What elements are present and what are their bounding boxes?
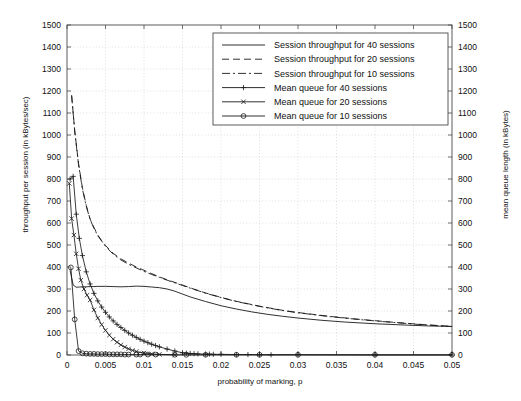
marker-plus — [195, 351, 200, 356]
marker-plus — [165, 346, 170, 351]
marker-plus — [74, 212, 79, 217]
series-2 — [72, 95, 452, 326]
y-tick-label-right: 300 — [458, 284, 472, 294]
x-axis-label: probability of marking, p — [180, 377, 340, 386]
y-tick-label-left: 1200 — [42, 86, 61, 96]
series-line — [72, 95, 452, 326]
y-tick-label-right: 1400 — [458, 42, 477, 52]
y-tick-label-left: 600 — [47, 218, 61, 228]
y-tick-label-left: 300 — [47, 284, 61, 294]
legend-item-label: Session throughput for 20 sessions — [274, 54, 415, 64]
y-tick-label-right: 500 — [458, 240, 472, 250]
legend-item-label: Session throughput for 10 sessions — [274, 69, 415, 79]
y-tick-label-left: 1500 — [42, 20, 61, 30]
y-tick-label-left: 0 — [56, 350, 61, 360]
series-line — [69, 183, 174, 354]
marker-cross — [99, 322, 103, 326]
series-5 — [68, 265, 454, 357]
y-tick-label-right: 700 — [458, 196, 472, 206]
y-tick-label-left: 900 — [47, 152, 61, 162]
plot-canvas: 0010010020020030030040040050050060060070… — [0, 0, 521, 401]
x-tick-label: 0.035 — [326, 360, 348, 370]
marker-cross — [111, 337, 115, 341]
series-4 — [67, 181, 177, 357]
x-tick-label: 0.02 — [213, 360, 230, 370]
y-tick-label-left: 200 — [47, 306, 61, 316]
series-line — [72, 95, 452, 326]
y-tick-label-right: 900 — [458, 152, 472, 162]
series-line — [70, 176, 452, 355]
series-line — [70, 270, 452, 326]
marker-cross — [119, 343, 123, 347]
y-tick-label-left: 1300 — [42, 64, 61, 74]
legend-item-label: Mean queue for 40 sessions — [274, 83, 388, 93]
y-tick-label-right: 1500 — [458, 20, 477, 30]
x-tick-label: 0.025 — [249, 360, 271, 370]
y-tick-label-right: 0 — [458, 350, 463, 360]
series-0 — [70, 270, 452, 326]
series-1 — [72, 95, 452, 326]
x-tick-label: 0.045 — [403, 360, 425, 370]
y-tick-label-right: 1300 — [458, 64, 477, 74]
x-tick-label: 0.01 — [136, 360, 153, 370]
marker-cross — [92, 308, 96, 312]
marker-cross — [82, 287, 86, 291]
marker-plus — [218, 352, 223, 357]
y-tick-label-left: 1400 — [42, 42, 61, 52]
legend: Session throughput for 40 sessionsSessio… — [213, 33, 448, 125]
x-tick-label: 0 — [65, 360, 70, 370]
marker-plus — [153, 343, 158, 348]
marker-cross — [107, 333, 111, 337]
marker-cross — [115, 340, 119, 344]
y-tick-label-right: 400 — [458, 262, 472, 272]
y-tick-label-left: 700 — [47, 196, 61, 206]
marker-plus — [211, 352, 216, 357]
marker-cross — [85, 293, 89, 297]
data-series — [67, 95, 454, 357]
y-tick-label-left: 500 — [47, 240, 61, 250]
marker-plus — [91, 291, 96, 296]
y-tick-label-left: 100 — [47, 328, 61, 338]
marker-cross — [88, 298, 92, 302]
y-tick-label-right: 1100 — [458, 108, 477, 118]
y-tick-label-right: 200 — [458, 306, 472, 316]
series-3 — [67, 174, 454, 358]
marker-plus — [157, 344, 162, 349]
y-tick-label-right: 100 — [458, 328, 472, 338]
marker-plus — [88, 281, 93, 286]
x-tick-label: 0.005 — [95, 360, 117, 370]
y-tick-label-left: 1100 — [43, 108, 62, 118]
y-axis-label-right: mean queue length (in kBytes) — [501, 80, 510, 250]
y-tick-label-right: 600 — [458, 218, 472, 228]
y-tick-label-left: 400 — [47, 262, 61, 272]
marker-cross — [96, 316, 100, 320]
marker-plus — [80, 253, 85, 258]
x-tick-label: 0.05 — [444, 360, 461, 370]
marker-plus — [77, 236, 82, 241]
marker-plus — [95, 298, 100, 303]
marker-plus — [84, 269, 89, 274]
x-tick-label: 0.015 — [172, 360, 194, 370]
y-tick-label-left: 1000 — [42, 130, 61, 140]
x-tick-label: 0.04 — [367, 360, 384, 370]
y-tick-label-left: 800 — [47, 174, 61, 184]
legend-item-label: Session throughput for 40 sessions — [274, 40, 415, 50]
chart-figure: 0010010020020030030040040050050060060070… — [0, 0, 521, 401]
y-tick-label-right: 800 — [458, 174, 472, 184]
x-tick-label: 0.03 — [290, 360, 307, 370]
y-tick-label-right: 1200 — [458, 86, 477, 96]
legend-item-label: Mean queue for 10 sessions — [274, 111, 388, 121]
y-axis-label-left: throughput per session (in kBytes/sec) — [21, 80, 30, 250]
legend-item-label: Mean queue for 20 sessions — [274, 97, 388, 107]
y-tick-label-right: 1000 — [458, 130, 477, 140]
marker-cross — [103, 328, 107, 332]
